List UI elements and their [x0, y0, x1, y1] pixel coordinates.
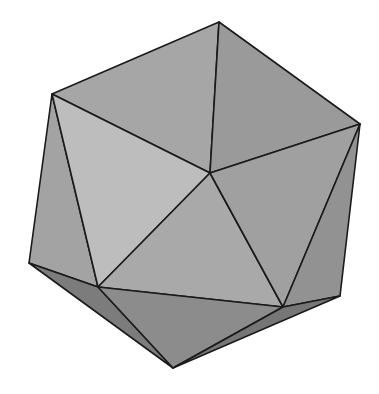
- icosahedron-figure: [0, 0, 379, 394]
- icosahedron-drawing: [0, 0, 379, 394]
